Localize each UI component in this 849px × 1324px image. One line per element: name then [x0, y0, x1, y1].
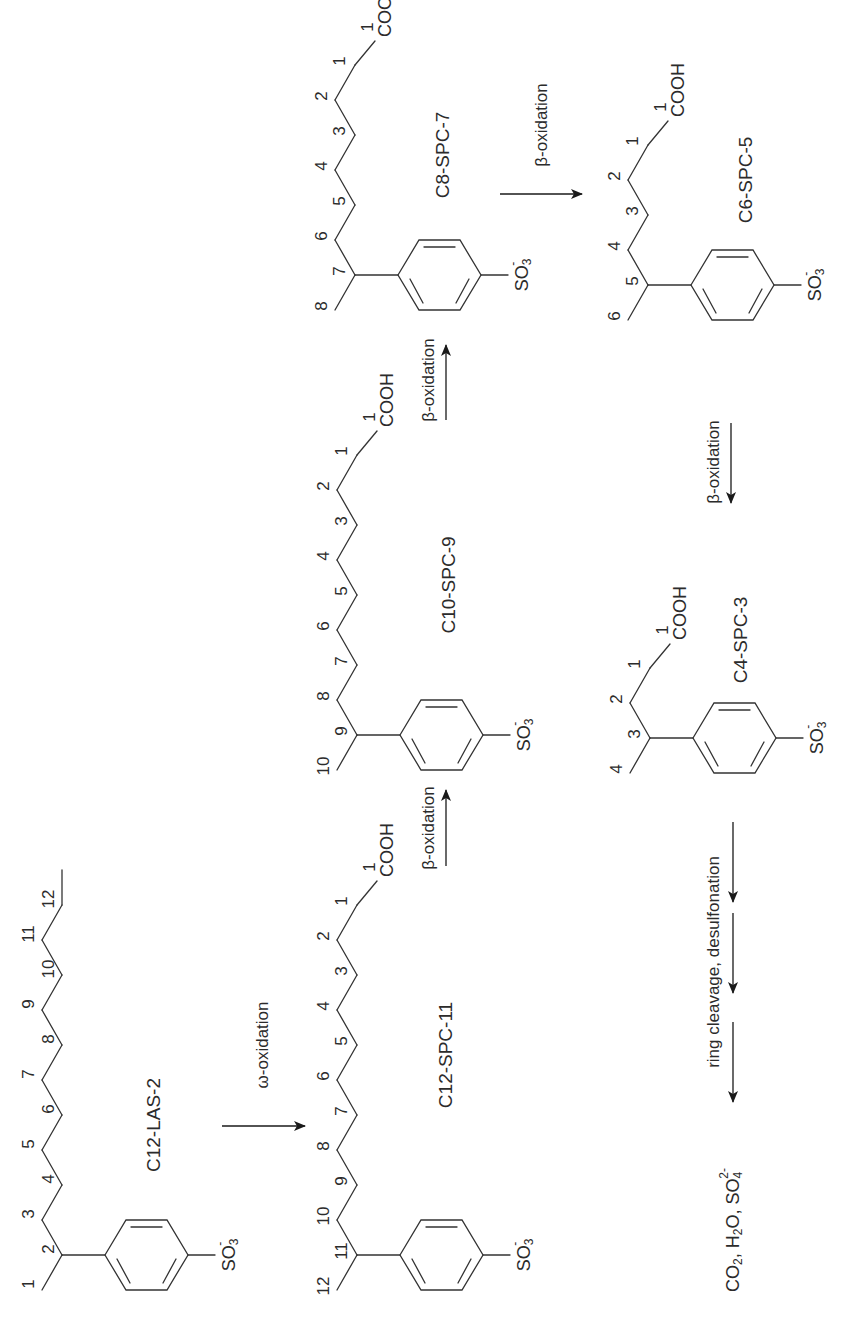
carbon-number: 2 [607, 694, 626, 703]
carbon-number: 4 [607, 764, 626, 773]
arrow-label-beta-2: β-oxidation [419, 338, 438, 422]
final-products: CO2, H2O, SO42- [717, 1168, 745, 1292]
compound-c12-spc-11: COOH1121110987654321SO3-C12-SPC-11 [314, 823, 537, 1295]
carbon-number: 5 [623, 276, 642, 285]
carbon-number: 2 [314, 481, 333, 490]
carbon-number: 1 [19, 1279, 38, 1288]
carbon-number: 6 [605, 311, 624, 320]
sulfonate-group: SO3- [508, 718, 536, 751]
compound-label: C12-LAS-2 [143, 1078, 164, 1172]
carbon-number: 5 [330, 196, 349, 205]
benzene-ring [693, 703, 776, 773]
chain-bond [337, 905, 357, 940]
sulfonate-group: SO3- [508, 1238, 536, 1271]
chain-bond [337, 525, 357, 560]
chain-bond [630, 738, 650, 773]
chain-bond [628, 215, 648, 250]
carbon-number: 4 [605, 241, 624, 250]
carbon-number: 1 [332, 446, 351, 455]
benzene-ring [400, 700, 483, 770]
chain-bond [42, 1115, 62, 1150]
arrow-label-beta-3: β-oxidation [532, 83, 551, 167]
carboxyl-group: COOH [668, 63, 688, 117]
carbon-number: 1 [358, 22, 377, 31]
chain-bond [335, 135, 355, 170]
carboxyl-group: COOH [377, 823, 397, 877]
carboxyl-group: COOH [670, 586, 690, 640]
carbon-number: 2 [605, 171, 624, 180]
carbon-number: 3 [623, 206, 642, 215]
chain-bond [42, 905, 62, 940]
carbon-number: 4 [39, 1174, 58, 1183]
carbon-number: 7 [19, 1069, 38, 1078]
arrow-label-beta-4: β-oxidation [704, 420, 723, 504]
carbon-number: 7 [330, 266, 349, 275]
compound-label: C12-SPC-11 [435, 1002, 456, 1108]
carbon-number: 9 [332, 1176, 351, 1185]
carboxyl-group: COOH [377, 373, 397, 427]
chain-bond [337, 455, 357, 490]
chain-bond [628, 285, 648, 320]
chain-bond [337, 1045, 357, 1080]
carbon-number: 12 [314, 1277, 333, 1296]
benzene-ring [398, 240, 481, 310]
chain-bond [337, 1185, 357, 1220]
carbon-number: 3 [625, 729, 644, 738]
compound-c6-spc-5: COOH1654321SO3-C6-SPC-5 [605, 63, 828, 321]
carbon-number: 11 [332, 1242, 351, 1260]
carbon-number: 1 [330, 56, 349, 65]
carbon-number: 2 [312, 91, 331, 100]
sulfonate-group: SO3- [801, 721, 829, 754]
sulfonate-group: SO3- [213, 1238, 241, 1271]
compound-c12-las-2: 123456789101112SO3-C12-LAS-2 [19, 870, 242, 1290]
carbon-number: 1 [623, 136, 642, 145]
carbon-number: 9 [332, 726, 351, 735]
sulfonate-group: SO3- [506, 258, 534, 291]
chain-bond [630, 668, 650, 703]
chain-bond [335, 205, 355, 240]
compound-label: C4-SPC-3 [730, 597, 751, 684]
carbon-number: 3 [332, 516, 351, 525]
carbon-number: 8 [39, 1034, 58, 1043]
carbon-number: 7 [332, 1106, 351, 1115]
compound-c4-spc-3: COOH14321SO3-C4-SPC-3 [607, 586, 830, 774]
carbon-number: 1 [625, 659, 644, 668]
carbon-number: 8 [314, 691, 333, 700]
chain-bond [337, 665, 357, 700]
carboxyl-group: COOH [375, 0, 395, 37]
arrow-label-beta-1: β-oxidation [419, 786, 438, 870]
carbon-number: 3 [19, 1209, 38, 1218]
chain-bond [628, 145, 648, 180]
carbon-number: 10 [314, 757, 333, 776]
carbon-number: 3 [332, 966, 351, 975]
carbon-number: 6 [312, 231, 331, 240]
carbon-number: 5 [332, 586, 351, 595]
arrow-label-omega: ω-oxidation [253, 1002, 272, 1089]
carbon-number: 1 [360, 412, 379, 421]
carbon-number: 12 [39, 890, 58, 909]
carbon-number: 4 [312, 161, 331, 170]
carboxyl-bond [355, 41, 375, 65]
chain-bond [42, 1185, 62, 1220]
compound-c10-spc-9: COOH110987654321SO3-C10-SPC-9 [314, 373, 537, 775]
compound-label: C6-SPC-5 [735, 137, 756, 224]
carbon-number: 6 [314, 621, 333, 630]
compound-label: C8-SPC-7 [432, 112, 453, 199]
chain-bond [42, 1045, 62, 1080]
carbon-number: 1 [651, 102, 670, 111]
chain-bond [337, 735, 357, 770]
carbon-number: 8 [312, 301, 331, 310]
carbon-number: 1 [653, 625, 672, 634]
carbon-number: 2 [314, 931, 333, 940]
sulfonate-group: SO3- [799, 268, 827, 301]
chain-bond [337, 595, 357, 630]
benzene-ring [400, 1220, 483, 1290]
carbon-number: 4 [314, 1001, 333, 1010]
carboxyl-bond [357, 431, 377, 455]
carboxyl-bond [650, 644, 670, 668]
carboxyl-bond [648, 121, 668, 145]
chain-bond [337, 975, 357, 1010]
carbon-number: 5 [19, 1139, 38, 1148]
carbon-number: 10 [39, 960, 58, 979]
carbon-number: 10 [314, 1207, 333, 1226]
